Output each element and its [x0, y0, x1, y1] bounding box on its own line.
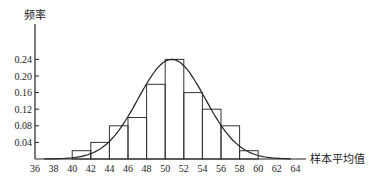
histogram-bar	[202, 109, 221, 159]
x-tick-label: 60	[253, 163, 263, 174]
histogram-chart: 0.040.080.120.160.200.24 363840424446485…	[0, 0, 379, 186]
x-tick-label: 44	[104, 163, 114, 174]
y-tick-label: 0.20	[15, 71, 33, 82]
y-tick-label: 0.16	[15, 87, 33, 98]
density-curve	[44, 59, 290, 158]
x-tick-label: 58	[235, 163, 245, 174]
histogram-bars	[72, 59, 258, 159]
x-tick-label: 42	[86, 163, 96, 174]
y-tick-label: 0.12	[15, 104, 33, 115]
histogram-bar	[165, 59, 184, 159]
histogram-bar	[91, 142, 110, 159]
y-tick-label: 0.08	[15, 120, 33, 131]
x-axis-ticks: 363840424446485052545658606264	[30, 163, 300, 174]
x-tick-label: 52	[179, 163, 189, 174]
x-tick-label: 64	[290, 163, 300, 174]
y-tick-label: 0.24	[15, 54, 33, 65]
histogram-bar	[147, 84, 166, 159]
y-axis-title: 频率	[24, 8, 46, 22]
histogram-bar	[184, 93, 203, 159]
x-tick-label: 40	[67, 163, 77, 174]
x-axis-title: 样本平均值	[310, 152, 365, 166]
x-tick-label: 54	[197, 163, 207, 174]
y-tick-label: 0.04	[15, 137, 33, 148]
x-tick-label: 56	[216, 163, 226, 174]
x-tick-label: 62	[272, 163, 282, 174]
x-tick-label: 46	[123, 163, 133, 174]
x-tick-label: 36	[30, 163, 40, 174]
histogram-bar	[221, 126, 240, 159]
histogram-bar	[128, 118, 147, 160]
x-tick-label: 38	[49, 163, 59, 174]
x-tick-label: 50	[160, 163, 170, 174]
x-tick-label: 48	[142, 163, 152, 174]
